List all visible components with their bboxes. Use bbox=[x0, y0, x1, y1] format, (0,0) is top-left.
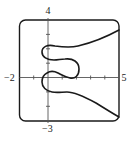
y-min-label: −3 bbox=[42, 123, 53, 134]
curve-line bbox=[42, 30, 119, 117]
y-max-label: 4 bbox=[46, 5, 51, 16]
plot-frame bbox=[20, 20, 120, 121]
x-min-label: −2 bbox=[4, 72, 15, 83]
x-max-label: 5 bbox=[122, 72, 127, 83]
chart: 4 −3 −2 5 bbox=[0, 0, 133, 144]
